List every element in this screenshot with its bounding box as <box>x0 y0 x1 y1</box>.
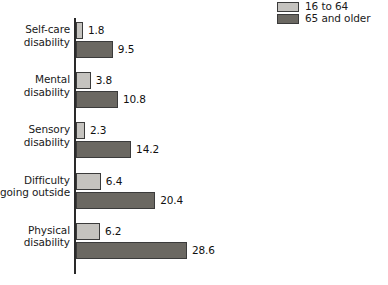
category-label-line1: Difficulty <box>0 174 70 187</box>
category-label-line2: disability <box>0 86 70 99</box>
category-label-line2: going outside <box>0 186 70 199</box>
bar-65-and-older[interactable] <box>76 91 118 108</box>
bar-row-65-and-older[interactable]: 9.5 <box>76 41 134 58</box>
bar-value-16-to-64: 1.8 <box>88 25 104 36</box>
category-label: Sensorydisability <box>0 123 70 148</box>
bar-value-16-to-64: 3.8 <box>96 75 112 86</box>
bar-row-65-and-older[interactable]: 14.2 <box>76 141 159 158</box>
category-label-line1: Self-care <box>0 23 70 36</box>
category-label: Physicaldisability <box>0 224 70 249</box>
bar-row-65-and-older[interactable]: 10.8 <box>76 91 146 108</box>
bar-row-16-to-64[interactable]: 6.4 <box>76 173 122 190</box>
category-label-line1: Physical <box>0 224 70 237</box>
category-label: Self-caredisability <box>0 23 70 48</box>
bar-value-65-and-older: 10.8 <box>123 94 146 105</box>
bar-16-to-64[interactable] <box>76 72 91 89</box>
bar-row-16-to-64[interactable]: 1.8 <box>76 22 104 39</box>
category-label-line1: Sensory <box>0 123 70 136</box>
bar-value-65-and-older: 9.5 <box>118 44 134 55</box>
category-label-line2: disability <box>0 136 70 149</box>
bar-16-to-64[interactable] <box>76 122 85 139</box>
bar-value-65-and-older: 14.2 <box>136 144 159 155</box>
bar-65-and-older[interactable] <box>76 141 131 158</box>
bar-16-to-64[interactable] <box>76 173 101 190</box>
bar-row-65-and-older[interactable]: 20.4 <box>76 192 183 209</box>
bar-value-16-to-64: 6.2 <box>105 226 121 237</box>
category-label-line1: Mental <box>0 73 70 86</box>
bar-65-and-older[interactable] <box>76 242 187 259</box>
bar-65-and-older[interactable] <box>76 192 155 209</box>
bar-row-16-to-64[interactable]: 2.3 <box>76 122 106 139</box>
category-label-line2: disability <box>0 236 70 249</box>
bar-chart: 16 to 64 65 and older Self-caredisabilit… <box>0 0 388 285</box>
bar-value-65-and-older: 28.6 <box>192 245 215 256</box>
category-label: Mentaldisability <box>0 73 70 98</box>
category-label-line2: disability <box>0 36 70 49</box>
bar-16-to-64[interactable] <box>76 223 100 240</box>
bar-row-16-to-64[interactable]: 3.8 <box>76 72 112 89</box>
bar-row-16-to-64[interactable]: 6.2 <box>76 223 121 240</box>
bar-value-16-to-64: 2.3 <box>90 125 106 136</box>
bar-value-65-and-older: 20.4 <box>160 195 183 206</box>
bar-16-to-64[interactable] <box>76 22 83 39</box>
bar-value-16-to-64: 6.4 <box>106 176 122 187</box>
plot-area: Self-caredisability1.89.5Mentaldisabilit… <box>0 0 388 285</box>
bar-65-and-older[interactable] <box>76 41 113 58</box>
bar-row-65-and-older[interactable]: 28.6 <box>76 242 215 259</box>
category-label: Difficultygoing outside <box>0 174 70 199</box>
